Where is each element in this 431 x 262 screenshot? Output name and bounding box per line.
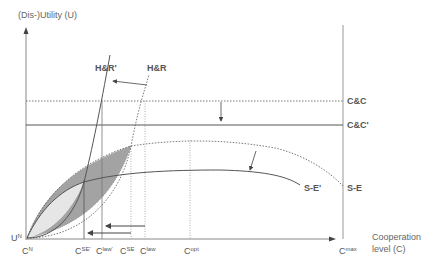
tick-cn: CN: [22, 246, 33, 256]
utility-diagram: (Dis-)Utility (U) Cooperation level (C) …: [0, 0, 431, 262]
hr-label: H&R: [147, 63, 167, 73]
tick-claw: Claw: [140, 246, 156, 256]
se-label: S-E: [347, 183, 362, 193]
x-axis-arrow-icon: [329, 237, 336, 242]
tick-claw-prime: Claw': [96, 246, 113, 256]
tick-cse-prime: CSE': [75, 246, 91, 256]
y-axis-label: (Dis-)Utility (U): [18, 10, 77, 20]
cc-prime-label: C&C': [347, 120, 369, 130]
x-axis-label-line1: Cooperation: [372, 232, 421, 242]
x-axis-label-line2: level (C): [372, 244, 406, 254]
hr-prime-label: H&R': [95, 63, 117, 73]
tick-copt: Copt: [184, 246, 199, 256]
origin-label: UN: [11, 233, 22, 243]
tick-cmax: Cmax: [339, 246, 357, 256]
cc-label: C&C: [347, 96, 367, 106]
tick-cse: CSE: [120, 246, 135, 256]
se-shift-arrow-icon: [250, 151, 256, 170]
y-axis-arrow-icon: [24, 27, 29, 34]
hr-shift-arrow-icon: [113, 81, 147, 85]
se-prime-label: S-E': [304, 183, 321, 193]
